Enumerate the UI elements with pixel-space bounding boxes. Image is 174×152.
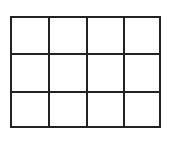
grid-column-divider-1: [48, 18, 50, 126]
grid-row-divider-2: [12, 91, 159, 93]
grid-row-divider-1: [12, 53, 159, 55]
grid-diagram: [10, 16, 161, 128]
grid-column-divider-2: [86, 18, 88, 126]
grid-column-divider-3: [123, 18, 125, 126]
